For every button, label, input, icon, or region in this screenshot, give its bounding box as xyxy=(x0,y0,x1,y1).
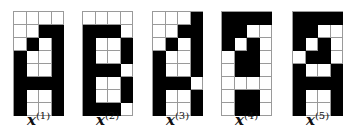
filled-cell xyxy=(318,38,331,51)
filled-cell xyxy=(83,25,96,38)
filled-cell xyxy=(108,25,121,38)
filled-cell xyxy=(318,12,331,25)
filled-cell xyxy=(191,51,204,64)
empty-cell xyxy=(153,12,166,25)
empty-cell xyxy=(247,77,260,90)
pixel-grid xyxy=(152,11,203,116)
empty-cell xyxy=(27,51,40,64)
filled-cell xyxy=(293,25,306,38)
empty-cell xyxy=(178,51,191,64)
empty-cell xyxy=(39,38,52,51)
filled-cell xyxy=(247,64,260,77)
filled-cell xyxy=(27,38,40,51)
filled-cell xyxy=(235,64,248,77)
empty-cell xyxy=(52,12,65,25)
filled-cell xyxy=(222,12,235,25)
filled-cell xyxy=(318,51,331,64)
filled-cell xyxy=(235,51,248,64)
pattern-grid-3 xyxy=(152,11,203,116)
filled-cell xyxy=(306,12,319,25)
filled-cell xyxy=(318,77,331,90)
filled-cell xyxy=(178,25,191,38)
empty-cell xyxy=(27,90,40,103)
empty-cell xyxy=(27,12,40,25)
empty-cell xyxy=(14,12,27,25)
empty-cell xyxy=(260,64,273,77)
filled-cell xyxy=(14,51,27,64)
filled-cell xyxy=(260,12,273,25)
empty-cell xyxy=(96,90,109,103)
empty-cell xyxy=(318,25,331,38)
empty-cell xyxy=(166,90,179,103)
filled-cell xyxy=(293,90,306,103)
filled-cell xyxy=(306,51,319,64)
label-superscript: (2) xyxy=(105,110,119,121)
pattern-grid-1 xyxy=(13,11,64,116)
label-variable: x xyxy=(306,111,315,129)
pixel-grid xyxy=(82,11,133,116)
filled-cell xyxy=(14,77,27,90)
empty-cell xyxy=(331,25,344,38)
empty-cell xyxy=(108,90,121,103)
label-variable: x xyxy=(235,111,244,129)
filled-cell xyxy=(191,38,204,51)
empty-cell xyxy=(39,12,52,25)
empty-cell xyxy=(27,64,40,77)
filled-cell xyxy=(52,77,65,90)
filled-cell xyxy=(96,64,109,77)
empty-cell xyxy=(96,38,109,51)
empty-cell xyxy=(306,38,319,51)
empty-cell xyxy=(331,38,344,51)
filled-cell xyxy=(121,51,134,64)
empty-cell xyxy=(331,51,344,64)
empty-cell xyxy=(260,77,273,90)
filled-cell xyxy=(153,90,166,103)
filled-cell xyxy=(83,77,96,90)
empty-cell xyxy=(121,64,134,77)
filled-cell xyxy=(83,64,96,77)
filled-cell xyxy=(52,38,65,51)
pattern-grid-5 xyxy=(292,11,343,116)
empty-cell xyxy=(260,90,273,103)
filled-cell xyxy=(96,25,109,38)
filled-cell xyxy=(235,90,248,103)
pattern-grid-2 xyxy=(82,11,133,116)
filled-cell xyxy=(247,12,260,25)
empty-cell xyxy=(166,64,179,77)
empty-cell xyxy=(27,25,40,38)
empty-cell xyxy=(260,38,273,51)
empty-cell xyxy=(306,90,319,103)
pattern-label-3: x(3) xyxy=(152,110,203,129)
empty-cell xyxy=(166,12,179,25)
filled-cell xyxy=(331,64,344,77)
filled-cell xyxy=(14,90,27,103)
filled-cell xyxy=(27,77,40,90)
label-superscript: (5) xyxy=(315,110,329,121)
filled-cell xyxy=(222,25,235,38)
empty-cell xyxy=(178,90,191,103)
pattern-label-2: x(2) xyxy=(82,110,133,129)
empty-cell xyxy=(14,25,27,38)
filled-cell xyxy=(293,64,306,77)
filled-cell xyxy=(108,64,121,77)
empty-cell xyxy=(318,90,331,103)
pixel-grid xyxy=(221,11,272,116)
empty-cell xyxy=(178,12,191,25)
empty-cell xyxy=(293,51,306,64)
filled-cell xyxy=(166,38,179,51)
label-superscript: (1) xyxy=(36,110,50,121)
empty-cell xyxy=(108,51,121,64)
empty-cell xyxy=(235,38,248,51)
label-variable: x xyxy=(27,111,36,129)
filled-cell xyxy=(191,12,204,25)
label-variable: x xyxy=(96,111,105,129)
empty-cell xyxy=(260,51,273,64)
filled-cell xyxy=(121,38,134,51)
filled-cell xyxy=(293,38,306,51)
empty-cell xyxy=(121,12,134,25)
empty-cell xyxy=(153,38,166,51)
filled-cell xyxy=(222,38,235,51)
empty-cell xyxy=(222,90,235,103)
filled-cell xyxy=(178,77,191,90)
empty-cell xyxy=(121,25,134,38)
